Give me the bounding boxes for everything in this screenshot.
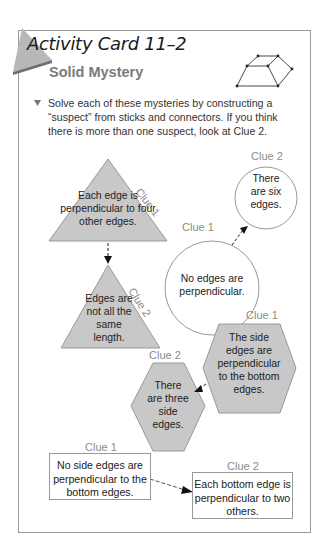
card-subtitle: Solid Mystery	[49, 64, 143, 80]
clue-label: Clue 1	[182, 221, 214, 233]
clue-text: There are three side edges.	[146, 379, 190, 431]
clue-text: Edges are not all the same length.	[80, 292, 138, 344]
instructions-text: Solve each of these mysteries by constru…	[48, 96, 298, 138]
clue-text: The side edges are perpendicular to the …	[214, 331, 284, 396]
prism-figure-icon	[236, 55, 294, 88]
clue-label: Clue 2	[227, 460, 259, 472]
clue-box: Each bottom edge is perpendicular to two…	[192, 472, 293, 519]
clue-text: No edges are perpendicular.	[172, 272, 252, 298]
clue-box: No side edges are perpendicular to the b…	[49, 453, 151, 500]
clue-text: Each edge is perpendicular to four other…	[60, 189, 156, 228]
clue-label: Clue 1	[246, 309, 278, 321]
clue-text: There are six edges.	[246, 172, 286, 211]
arrow-head-icon	[104, 256, 112, 264]
clue-label: Clue 1	[85, 441, 117, 453]
clue-label: Clue 2	[149, 349, 181, 361]
triangle-down-bullet	[34, 100, 41, 106]
clue-label: Clue 2	[251, 150, 283, 162]
card-title: Activity Card 11–2	[27, 33, 186, 54]
